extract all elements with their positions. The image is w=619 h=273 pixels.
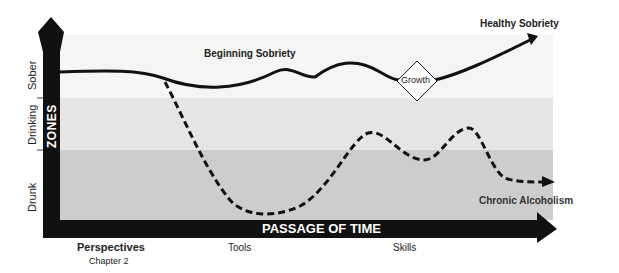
zone-label-drunk: Drunk xyxy=(26,183,38,212)
drunk-zone-band xyxy=(60,150,553,220)
zone-label-sober: Sober xyxy=(26,61,38,90)
stage-label-skills: Skills xyxy=(393,242,416,253)
zone-label-drinking: Drinking xyxy=(26,105,38,145)
growth-label: Growth xyxy=(401,75,430,85)
healthy-sobriety-label: Healthy Sobriety xyxy=(480,18,559,29)
beginning-sobriety-label: Beginning Sobriety xyxy=(204,48,296,59)
y-axis-title: ZONES xyxy=(45,104,59,148)
stage-label-perspectives: Perspectives xyxy=(77,241,145,253)
sober-zone-band xyxy=(60,35,553,98)
x-axis-title: PASSAGE OF TIME xyxy=(262,221,381,236)
stage-label-tools: Tools xyxy=(228,242,251,253)
stage-subtitle: Chapter 2 xyxy=(89,256,129,266)
chronic-alcoholism-label: Chronic Alcoholism xyxy=(479,195,573,206)
drinking-zone-band xyxy=(60,98,553,150)
